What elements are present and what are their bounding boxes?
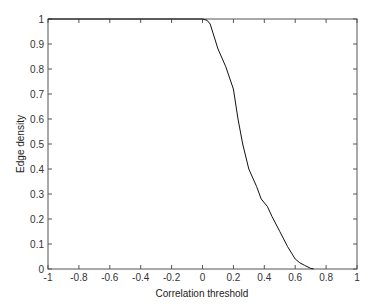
plot-area: -1-0.8-0.6-0.4-0.200.20.40.60.81 00.10.2… xyxy=(30,14,360,284)
y-tick-label: 0.4 xyxy=(30,164,44,175)
x-tick-label: 0.6 xyxy=(288,272,302,283)
y-tick-label: 0.3 xyxy=(30,189,44,200)
x-tick-label: 0.8 xyxy=(319,272,333,283)
y-tick-label: 0.5 xyxy=(30,139,44,150)
y-tick-label: 1 xyxy=(38,14,44,25)
x-tick-label: -0.4 xyxy=(132,272,150,283)
y-axis-label: Edge density xyxy=(15,115,26,173)
x-tick-label: -0.8 xyxy=(70,272,88,283)
y-tick-label: 0.9 xyxy=(30,39,44,50)
x-tick-label: 1 xyxy=(354,272,360,283)
line-chart: -1-0.8-0.6-0.4-0.200.20.40.60.81 00.10.2… xyxy=(0,0,375,308)
x-tick-label: 0.4 xyxy=(257,272,271,283)
y-tick-label: 0.7 xyxy=(30,89,44,100)
axes-box xyxy=(48,19,357,269)
y-tick-label: 0.6 xyxy=(30,114,44,125)
x-tick-label: 0.2 xyxy=(226,272,240,283)
x-tick-label: 0 xyxy=(200,272,206,283)
y-tick-label: 0 xyxy=(38,264,44,275)
y-tick-label: 0.2 xyxy=(30,214,44,225)
x-tick-label: -1 xyxy=(44,272,53,283)
x-tick-label: -0.6 xyxy=(101,272,119,283)
x-tick-label: -0.2 xyxy=(163,272,181,283)
y-tick-label: 0.8 xyxy=(30,64,44,75)
y-tick-label: 0.1 xyxy=(30,239,44,250)
x-axis-label: Correlation threshold xyxy=(156,288,249,299)
